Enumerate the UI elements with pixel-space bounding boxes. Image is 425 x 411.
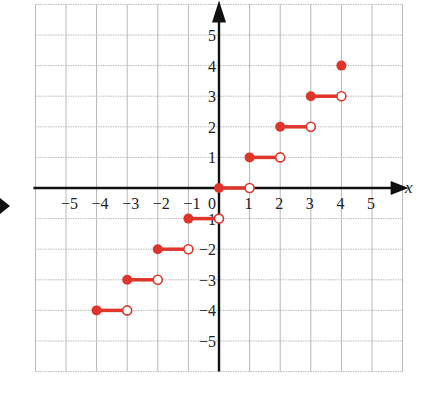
x-tick-label: 3 (306, 195, 314, 212)
y-tick-label: 1 (208, 149, 216, 166)
closed-endpoint (245, 152, 255, 162)
closed-point (336, 61, 346, 71)
x-tick-label: −5 (61, 195, 78, 212)
open-endpoint (276, 153, 285, 162)
step-function-chart: −5−4−3−2−101234554321−1−2−3−4−5 x (0, 0, 425, 411)
open-endpoint (337, 92, 346, 101)
closed-endpoint (306, 91, 316, 101)
y-tick-label: 3 (208, 88, 216, 105)
open-endpoint (184, 245, 193, 254)
y-tick-label: −5 (199, 333, 216, 350)
x-tick-label: 4 (336, 195, 344, 212)
closed-endpoint (275, 122, 285, 132)
y-tick-label: 5 (208, 27, 216, 44)
x-axis-label: x (404, 178, 413, 197)
y-tick-label: −2 (199, 241, 216, 258)
open-endpoint (215, 214, 224, 223)
y-tick-label: −4 (199, 302, 216, 319)
x-tick-label: −4 (92, 195, 109, 212)
x-tick-label: −2 (153, 195, 170, 212)
x-tick-label: 0 (208, 195, 216, 212)
open-endpoint (245, 184, 254, 193)
x-tick-label: 2 (275, 195, 283, 212)
left-margin-arrow-icon (0, 198, 10, 214)
closed-endpoint (122, 275, 132, 285)
closed-endpoint (183, 214, 193, 224)
open-endpoint (153, 275, 162, 284)
y-tick-label: 2 (208, 119, 216, 136)
closed-endpoint (153, 244, 163, 254)
open-endpoint (306, 122, 315, 131)
x-tick-label: 1 (245, 195, 253, 212)
x-tick-label: −3 (122, 195, 139, 212)
y-tick-label: −3 (199, 272, 216, 289)
closed-endpoint (214, 183, 224, 193)
x-tick-label: −1 (183, 195, 200, 212)
y-tick-label: 4 (208, 58, 216, 75)
closed-endpoint (92, 305, 102, 315)
y-axis-arrow-icon (212, 0, 226, 22)
x-tick-label: 5 (367, 195, 375, 212)
open-endpoint (123, 306, 132, 315)
